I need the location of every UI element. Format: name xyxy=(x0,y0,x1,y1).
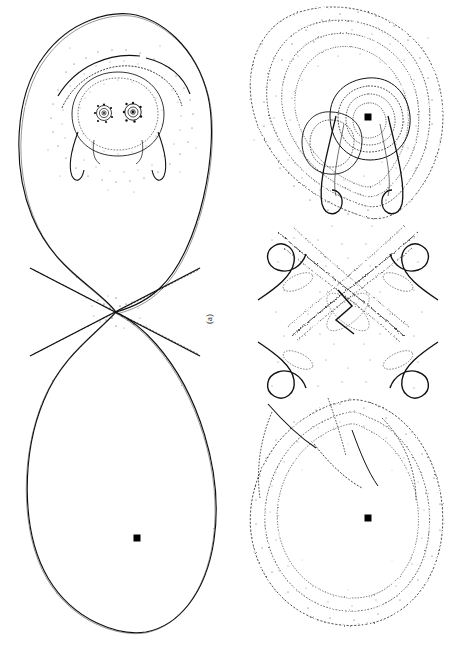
panel-b-turnstile-upper xyxy=(258,244,438,300)
panel-b-turnstile-lower xyxy=(258,342,438,398)
panel-a-separatrix-shadow xyxy=(21,16,215,634)
panel-a: (a) xyxy=(0,0,232,646)
panel-b-fixed-point-marker-lower xyxy=(363,513,373,523)
panel-b-homoclinic-tangle xyxy=(278,226,418,342)
panel-a-island-chains xyxy=(58,55,190,180)
panel-b-tangle-loops xyxy=(281,269,416,373)
panel-b-lower-chaotic-sea xyxy=(250,400,442,626)
panel-b: (b) xyxy=(232,0,463,646)
panel-b-fixed-point-marker-upper xyxy=(363,112,373,122)
panel-b-upper-island xyxy=(302,78,410,174)
panel-b-upper-tails xyxy=(321,116,403,214)
panel-a-island-right xyxy=(123,102,142,123)
panel-a-separatrix xyxy=(19,14,216,633)
panel-a-stochastic-halo xyxy=(48,46,197,193)
panel-a-island-left xyxy=(94,103,113,123)
panel-b-upper-speckle xyxy=(254,12,441,227)
figure-canvas: (a) xyxy=(0,0,463,646)
panel-b-plot xyxy=(232,0,463,646)
panel-a-plot xyxy=(0,0,232,646)
panel-a-fixed-point-marker xyxy=(132,533,142,543)
panel-a-label: (a) xyxy=(204,309,214,329)
panel-a-x-point xyxy=(30,268,200,356)
